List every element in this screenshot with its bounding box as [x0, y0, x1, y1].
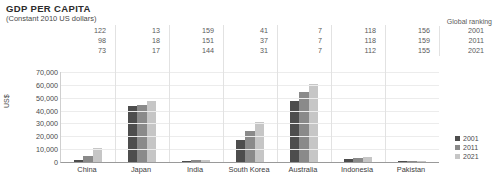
gridline — [61, 136, 439, 137]
gridline — [61, 85, 439, 86]
y-tick-label: 50,000 — [36, 93, 58, 102]
x-tick-label: Pakistan — [384, 165, 438, 174]
ranking-cell: 13 — [116, 26, 170, 36]
ranking-cell: 118 — [332, 36, 386, 46]
ranking-cell: 73 — [62, 46, 116, 56]
plot-area — [60, 72, 439, 163]
x-tick-label: Australia — [276, 165, 330, 174]
bar — [236, 140, 246, 162]
legend-swatch-icon — [455, 136, 460, 141]
ranking-cell: 144 — [170, 46, 224, 56]
x-tick-label: South Korea — [222, 165, 276, 174]
bar — [407, 161, 417, 162]
legend-item[interactable]: 2011 — [455, 143, 479, 152]
group-separator — [223, 25, 224, 162]
ranking-cell: 151 — [170, 36, 224, 46]
bar — [353, 158, 363, 162]
ranking-year-label: 2021 — [440, 46, 484, 56]
ranking-cell: 7 — [278, 36, 332, 46]
chart-legend: 200120112021 — [455, 134, 479, 161]
ranking-cell: 41 — [224, 26, 278, 36]
x-tick-label: Indonesia — [330, 165, 384, 174]
y-axis-tick-labels: 010,00020,00030,00040,00050,00060,00070,… — [18, 72, 58, 162]
global-ranking-header: Global ranking — [447, 18, 492, 25]
legend-label: 2001 — [463, 135, 479, 142]
ranking-year-label: 2001 — [440, 26, 484, 36]
ranking-cell: 122 — [62, 26, 116, 36]
chart-subtitle: (Constant 2010 US dollars) — [6, 14, 96, 23]
page-title: GDP PER CAPITA — [6, 3, 91, 14]
ranking-cell: 159 — [386, 36, 440, 46]
ranking-cell: 159 — [170, 26, 224, 36]
group-separator — [115, 25, 116, 162]
ranking-cell: 7 — [278, 26, 332, 36]
legend-label: 2011 — [463, 144, 478, 151]
gridline — [61, 111, 439, 112]
bar — [417, 161, 427, 162]
bar — [363, 157, 373, 162]
y-tick-label: 30,000 — [36, 119, 58, 128]
gridline — [61, 123, 439, 124]
bar — [191, 160, 201, 162]
bar — [74, 160, 84, 162]
bar — [398, 161, 408, 162]
y-tick-label: 20,000 — [36, 132, 58, 141]
bar — [128, 106, 138, 162]
bar — [83, 156, 93, 162]
gridline — [61, 72, 439, 73]
legend-swatch-icon — [455, 145, 460, 150]
y-tick-label: 70,000 — [36, 68, 58, 77]
ranking-year-label: 2011 — [440, 36, 484, 46]
ranking-cell: 118 — [332, 26, 386, 36]
ranking-cell: 156 — [386, 26, 440, 36]
gridline — [61, 98, 439, 99]
bar — [137, 105, 147, 162]
y-tick-label: 60,000 — [36, 80, 58, 89]
x-tick-label: India — [168, 165, 222, 174]
y-tick-label: 10,000 — [36, 145, 58, 154]
x-axis-tick-labels: ChinaJapanIndiaSouth KoreaAustraliaIndon… — [60, 165, 438, 174]
ranking-cell: 18 — [116, 36, 170, 46]
group-separator — [169, 25, 170, 162]
group-separator — [331, 25, 332, 162]
ranking-cell: 7 — [278, 46, 332, 56]
x-tick-label: China — [60, 165, 114, 174]
y-tick-label: 0 — [54, 158, 58, 167]
y-tick-label: 40,000 — [36, 106, 58, 115]
x-tick-label: Japan — [114, 165, 168, 174]
ranking-cell: 37 — [224, 36, 278, 46]
group-separator — [277, 25, 278, 162]
bar — [182, 161, 192, 162]
gdp-per-capita-chart: GDP PER CAPITA (Constant 2010 US dollars… — [0, 0, 498, 190]
bar — [201, 160, 211, 162]
group-separator — [385, 25, 386, 162]
legend-item[interactable]: 2001 — [455, 134, 479, 143]
y-axis-title: US$ — [3, 94, 10, 108]
legend-item[interactable]: 2021 — [455, 152, 479, 161]
ranking-cell: 98 — [62, 36, 116, 46]
ranking-cell: 31 — [224, 46, 278, 56]
bar — [255, 122, 265, 162]
ranking-cell: 112 — [332, 46, 386, 56]
legend-label: 2021 — [463, 153, 479, 160]
gridline — [61, 149, 439, 150]
ranking-cell: 155 — [386, 46, 440, 56]
ranking-cell: 17 — [116, 46, 170, 56]
bar — [299, 92, 309, 162]
bar — [344, 159, 354, 162]
legend-swatch-icon — [455, 154, 460, 159]
